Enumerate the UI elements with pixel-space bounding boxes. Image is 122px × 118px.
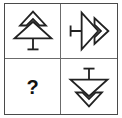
matrix-cell-top-left[interactable]	[5, 4, 61, 59]
double-chevron-arrow-right-with-stem-icon	[66, 8, 112, 54]
matrix-cell-bottom-right[interactable]	[61, 59, 117, 114]
matrix-grid: ?	[4, 3, 118, 115]
puzzle-matrix: ?	[0, 0, 122, 118]
matrix-cell-top-right[interactable]	[61, 4, 117, 59]
double-chevron-arrow-up-with-stem-icon	[10, 8, 56, 54]
double-chevron-arrow-down-with-stem-icon	[66, 64, 112, 110]
matrix-cell-bottom-left[interactable]: ?	[5, 59, 61, 114]
question-mark: ?	[26, 77, 38, 97]
